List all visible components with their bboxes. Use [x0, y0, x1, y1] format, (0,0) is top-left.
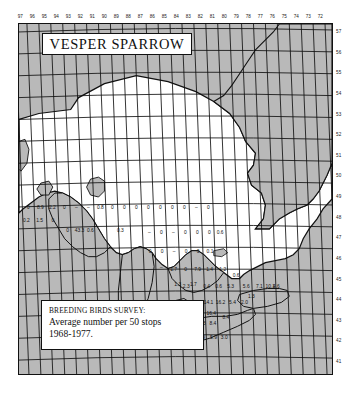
survey-value-cell: 0: [63, 205, 66, 210]
longitude-tick-94: 94: [54, 14, 59, 19]
longitude-tick-77: 77: [258, 14, 263, 19]
survey-value-cell: 0: [147, 205, 150, 210]
longitude-tick-83: 83: [186, 14, 191, 19]
longitude-tick-80: 80: [222, 14, 227, 19]
survey-value-cell: 0: [149, 248, 152, 253]
survey-value-cell: 0: [161, 248, 164, 253]
latitude-tick-49: 49: [336, 194, 341, 199]
longitude-tick-72: 72: [318, 14, 323, 19]
map-inner: 08.92.20––0.80000000–00.21.50043.30.60.3…: [19, 24, 332, 374]
latitude-tick-55: 55: [336, 70, 341, 75]
survey-value-cell: 0: [51, 217, 54, 222]
survey-value-cell: 16.2: [216, 300, 226, 305]
longitude-tick-75: 75: [282, 14, 287, 19]
survey-value-cell: 0: [208, 230, 211, 235]
survey-value-cell: 0.4: [203, 283, 210, 288]
survey-value-cell: 0: [183, 205, 186, 210]
survey-value-cell: 0.1: [207, 248, 214, 253]
latitude-tick-54: 54: [336, 90, 341, 95]
survey-value-cell: 16.4: [207, 310, 217, 315]
legend-metric: Average number per 50 stops: [49, 316, 197, 328]
survey-value-cell: 0.6: [233, 273, 240, 278]
latitude-tick-48: 48: [336, 214, 341, 219]
survey-value-cell: 0: [207, 205, 210, 210]
survey-value-cell: 1.4: [206, 267, 213, 272]
survey-value-cell: 5.9: [210, 335, 217, 340]
survey-value-cell: 5.3: [227, 283, 234, 288]
latitude-tick-57: 57: [336, 29, 341, 34]
longitude-tick-84: 84: [174, 14, 179, 19]
survey-value-cell: 4.6: [273, 283, 280, 288]
longitude-tick-96: 96: [30, 14, 35, 19]
survey-value-cell: 0.6: [217, 230, 224, 235]
survey-value-cell: 0: [184, 230, 187, 235]
longitude-tick-88: 88: [126, 14, 131, 19]
survey-value-cell: 8.9: [37, 205, 44, 210]
longitude-tick-87: 87: [138, 14, 143, 19]
survey-value-cell: 8.4: [209, 320, 216, 325]
latitude-tick-42: 42: [336, 338, 341, 343]
survey-value-cell: 0: [159, 205, 162, 210]
survey-value-cell: –: [87, 205, 90, 210]
survey-value-cell: 0.2: [23, 217, 30, 222]
survey-value-cell: –: [172, 230, 175, 235]
vesper-sparrow-distribution-map: 9796959493929190898887868584838281807978…: [0, 0, 355, 396]
map-title-box: VESPER SPARROW: [42, 33, 192, 55]
longitude-tick-76: 76: [270, 14, 275, 19]
survey-value-cell: 1.7: [190, 281, 197, 286]
survey-value-cell: 1.5: [36, 217, 43, 222]
longitude-tick-85: 85: [162, 14, 167, 19]
survey-value-cell: –: [75, 205, 78, 210]
survey-value-cell: 1.2: [219, 267, 226, 272]
longitude-tick-89: 89: [114, 14, 119, 19]
survey-value-cell: 0: [197, 248, 200, 253]
survey-value-cell: 1.3: [248, 294, 255, 299]
survey-value-cell: 7.9: [194, 267, 201, 272]
latitude-tick-50: 50: [336, 173, 341, 178]
longitude-tick-95: 95: [42, 14, 47, 19]
survey-value-cell: 0: [171, 205, 174, 210]
survey-value-cell: –: [160, 265, 163, 270]
latitude-tick-44: 44: [336, 297, 341, 302]
longitude-tick-86: 86: [150, 14, 155, 19]
survey-value-cell: 0: [196, 230, 199, 235]
longitude-tick-82: 82: [198, 14, 203, 19]
survey-value-cell: –: [148, 230, 151, 235]
latitude-tick-53: 53: [336, 111, 341, 116]
latitude-tick-52: 52: [336, 132, 341, 137]
survey-value-cell: 0: [66, 228, 69, 233]
survey-value-cell: 2.2: [49, 205, 56, 210]
latitude-tick-45: 45: [336, 276, 341, 281]
survey-value-cell: 5.4: [229, 300, 236, 305]
survey-value-cell: 0: [160, 230, 163, 235]
survey-value-cell: –: [195, 205, 198, 210]
legend-survey-name: BREEDING BIRDS SURVEY:: [49, 305, 197, 316]
longitude-tick-91: 91: [90, 14, 95, 19]
survey-value-cell: 43.3: [75, 228, 85, 233]
latitude-tick-41: 41: [336, 359, 341, 364]
latitude-tick-46: 46: [336, 255, 341, 260]
longitude-tick-79: 79: [234, 14, 239, 19]
survey-value-cell: 0.8: [97, 205, 104, 210]
survey-value-cell: 3.0: [221, 335, 228, 340]
page-title: VESPER SPARROW: [50, 36, 185, 53]
latitude-tick-51: 51: [336, 152, 341, 157]
longitude-tick-92: 92: [78, 14, 83, 19]
longitude-tick-97: 97: [18, 14, 23, 19]
survey-value-cell: 2.0: [241, 300, 248, 305]
longitude-tick-93: 93: [66, 14, 71, 19]
survey-value-cell: 7.1: [256, 283, 263, 288]
survey-value-cell: –: [173, 248, 176, 253]
survey-value-cell: 1.3: [174, 281, 181, 286]
survey-value-cell: 0: [185, 248, 188, 253]
survey-value-cell: 1.7: [170, 267, 177, 272]
survey-value-cell: 0.3: [117, 228, 124, 233]
longitude-tick-81: 81: [210, 14, 215, 19]
latitude-tick-56: 56: [336, 49, 341, 54]
longitude-tick-78: 78: [246, 14, 251, 19]
survey-value-cell: 2.3: [183, 283, 190, 288]
survey-value-cell: 0: [135, 205, 138, 210]
longitude-tick-73: 73: [306, 14, 311, 19]
map-legend-box: BREEDING BIRDS SURVEY: Average number pe…: [41, 300, 204, 350]
survey-value-cell: 0: [111, 205, 114, 210]
